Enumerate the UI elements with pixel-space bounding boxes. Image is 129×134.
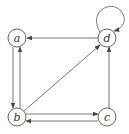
edge-d-self-loop	[97, 6, 125, 32]
directed-graph: a d b c	[0, 0, 129, 134]
node-d: d	[98, 29, 116, 47]
node-a-label: a	[14, 32, 21, 45]
node-d-label: d	[103, 32, 110, 45]
node-c: c	[98, 108, 116, 126]
node-c-label: c	[104, 111, 110, 124]
node-a: a	[8, 29, 26, 47]
edge-b-to-d	[24, 45, 100, 111]
node-b-label: b	[13, 111, 20, 124]
node-b: b	[8, 108, 26, 126]
